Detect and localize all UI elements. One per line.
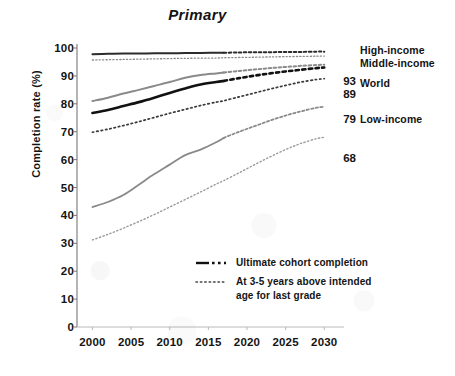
series-end-value: 93 — [338, 75, 356, 87]
series-end-label: Middle-income — [360, 57, 435, 69]
legend-label-above-age-line2: age for last grade — [236, 290, 321, 301]
series-line-projected — [224, 52, 324, 53]
series-line-dotted — [92, 137, 324, 240]
series-1 — [92, 52, 324, 55]
series-6 — [92, 107, 324, 207]
series-line-observed — [92, 53, 223, 54]
legend-label-above-age-line1: At 3-5 years above intended — [236, 276, 372, 287]
legend-label-ultimate-cohort: Ultimate cohort completion — [236, 257, 368, 268]
chart-container: Primary Completion rate (%) 010203040506… — [0, 0, 455, 376]
series-7 — [92, 137, 324, 240]
series-end-label: Low-income — [360, 113, 422, 125]
series-line-projected — [224, 68, 324, 81]
series-2 — [92, 56, 324, 60]
series-line-dotted — [92, 56, 324, 60]
series-end-label: World — [360, 77, 390, 89]
series-line-observed — [92, 138, 223, 207]
series-end-label: High-income — [360, 44, 425, 56]
series-line-projected — [224, 107, 324, 138]
series-end-value: 68 — [338, 152, 356, 164]
series-end-value: 79 — [338, 113, 356, 125]
series-end-value: 89 — [338, 88, 356, 100]
